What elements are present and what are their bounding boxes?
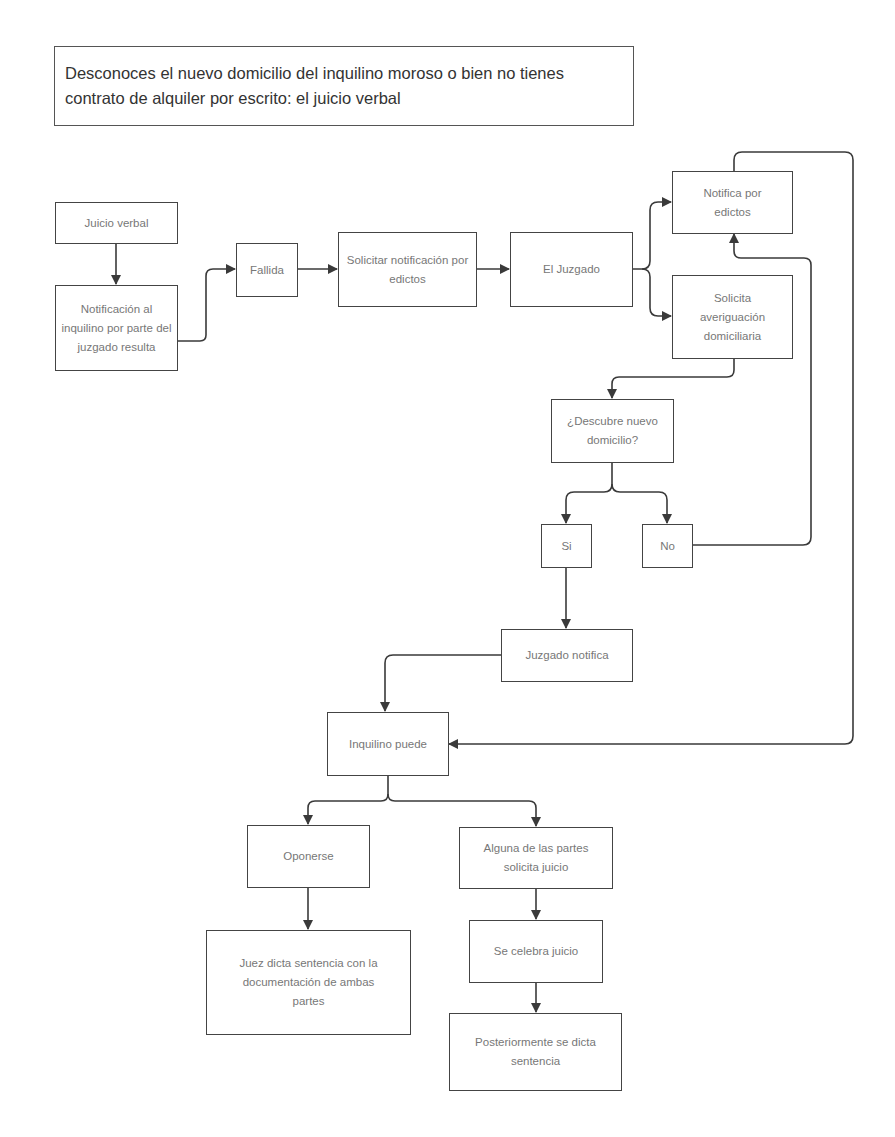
edge-notificacion-fallida: [177, 269, 235, 341]
node-juez-dicta: Juez dicta sentencia con la documentació…: [206, 930, 411, 1035]
node-oponerse: Oponerse: [247, 825, 370, 888]
node-notifica-edictos: Notifica por edictos: [672, 171, 793, 234]
node-solicita-averiguacion: Solicita averiguación domiciliaria: [672, 275, 793, 359]
node-alguna-partes: Alguna de las partes solicita juicio: [459, 827, 613, 889]
node-se-celebra: Se celebra juicio: [469, 920, 603, 983]
node-inquilino-puede: Inquilino puede: [327, 712, 449, 776]
node-solicitar-edictos: Solicitar notificación por edictos: [338, 232, 477, 307]
node-el-juzgado: El Juzgado: [510, 232, 633, 307]
edge-solicita-descubre: [612, 358, 734, 398]
edge-inquilino-alguna: [388, 794, 536, 826]
edge-descubre-si: [566, 462, 612, 523]
node-juicio-verbal: Juicio verbal: [55, 202, 178, 244]
node-fallida: Fallida: [236, 243, 298, 297]
edge-descubre-no: [612, 484, 667, 523]
edge-juzgado-solicita: [642, 269, 671, 316]
node-descubre: ¿Descubre nuevo domicilio?: [551, 399, 674, 463]
edge-juzgadonotifica-inquilino: [385, 655, 501, 711]
edge-juzgado-notifica: [632, 202, 671, 269]
node-si: Si: [541, 524, 592, 568]
edge-inquilino-oponerse: [308, 775, 388, 824]
node-no: No: [642, 524, 693, 568]
node-juzgado-notifica: Juzgado notifica: [501, 629, 633, 682]
node-notificacion: Notificación al inquilino por parte del …: [55, 285, 178, 371]
node-posteriormente: Posteriormente se dicta sentencia: [449, 1013, 622, 1091]
